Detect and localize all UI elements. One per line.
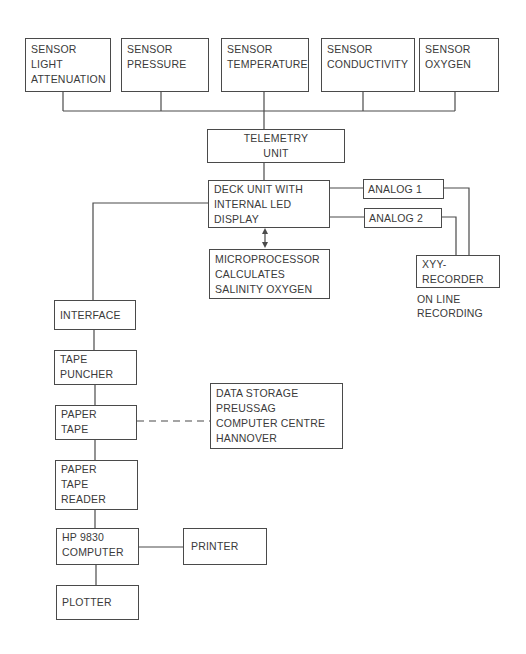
box-label: MICROPROCESSOR [215, 252, 324, 267]
box-label: SENSOR [227, 42, 303, 57]
box-label: SENSOR [31, 42, 105, 57]
box-label: PRESSURE [127, 57, 203, 72]
box-label: SENSOR [327, 42, 409, 57]
deck-unit-box: DECK UNIT WITH INTERNAL LED DISPLAY [208, 180, 330, 228]
analog-1-box: ANALOG 1 [363, 179, 444, 199]
box-label: UNIT [212, 146, 340, 161]
paper-tape-reader-box: PAPER TAPE READER [55, 460, 138, 510]
online-recording-note: ON LINE RECORDING [417, 292, 483, 320]
box-label: ATTENUATION [31, 72, 105, 87]
paper-tape-box: PAPER TAPE [55, 405, 137, 440]
box-label: TELEMETRY [212, 131, 340, 146]
note-label: RECORDING [417, 306, 483, 320]
box-label: TAPE [60, 352, 131, 367]
box-label: READER [61, 492, 132, 507]
box-label: PAPER [61, 407, 131, 422]
box-label: COMPUTER [62, 545, 133, 560]
hp9830-computer-box: HP 9830 COMPUTER [56, 528, 139, 565]
xyy-recorder-box: XYY- RECORDER [416, 255, 500, 288]
box-label: TAPE [61, 477, 132, 492]
data-storage-box: DATA STORAGE PREUSSAG COMPUTER CENTRE HA… [210, 383, 343, 449]
sensor-pressure-box: SENSOR PRESSURE [121, 38, 209, 92]
box-label: TAPE [61, 422, 131, 437]
plotter-box: PLOTTER [56, 585, 139, 620]
box-label: ANALOG 2 [369, 211, 437, 226]
box-label: PREUSSAG [216, 401, 337, 416]
note-label: ON LINE [417, 292, 483, 306]
box-label: RECORDER [422, 272, 494, 287]
microprocessor-box: MICROPROCESSOR CALCULATES SALINITY OXYGE… [209, 249, 330, 299]
sensor-conductivity-box: SENSOR CONDUCTIVITY [321, 38, 415, 92]
box-label: INTERFACE [60, 308, 130, 323]
box-label: XYY- [422, 257, 494, 272]
box-label: PLOTTER [62, 595, 133, 610]
box-label: PRINTER [191, 539, 259, 554]
box-label: DISPLAY [214, 212, 324, 227]
box-label: PUNCHER [60, 367, 131, 382]
box-label: LIGHT [31, 57, 105, 72]
sensor-oxygen-box: SENSOR OXYGEN [419, 38, 499, 92]
box-label: HP 9830 [62, 530, 133, 545]
box-label: DATA STORAGE [216, 386, 337, 401]
analog-2-box: ANALOG 2 [364, 208, 442, 228]
box-label: SENSOR [425, 42, 493, 57]
sensor-temperature-box: SENSOR TEMPERATURE [221, 38, 309, 92]
box-label: SENSOR [127, 42, 203, 57]
interface-box: INTERFACE [54, 300, 136, 330]
sensor-light-attenuation-box: SENSOR LIGHT ATTENUATION [25, 38, 111, 92]
telemetry-unit-box: TELEMETRY UNIT [207, 129, 345, 163]
box-label: PAPER [61, 462, 132, 477]
box-label: COMPUTER CENTRE [216, 416, 337, 431]
box-label: CALCULATES [215, 267, 324, 282]
box-label: SALINITY OXYGEN [215, 282, 324, 297]
box-label: CONDUCTIVITY [327, 57, 409, 72]
box-label: HANNOVER [216, 431, 337, 446]
box-label: DECK UNIT WITH [214, 182, 324, 197]
box-label: ANALOG 1 [368, 182, 439, 197]
printer-box: PRINTER [183, 528, 267, 565]
box-label: INTERNAL LED [214, 197, 324, 212]
box-label: OXYGEN [425, 57, 493, 72]
tape-puncher-box: TAPE PUNCHER [54, 350, 137, 385]
box-label: TEMPERATURE [227, 57, 303, 72]
